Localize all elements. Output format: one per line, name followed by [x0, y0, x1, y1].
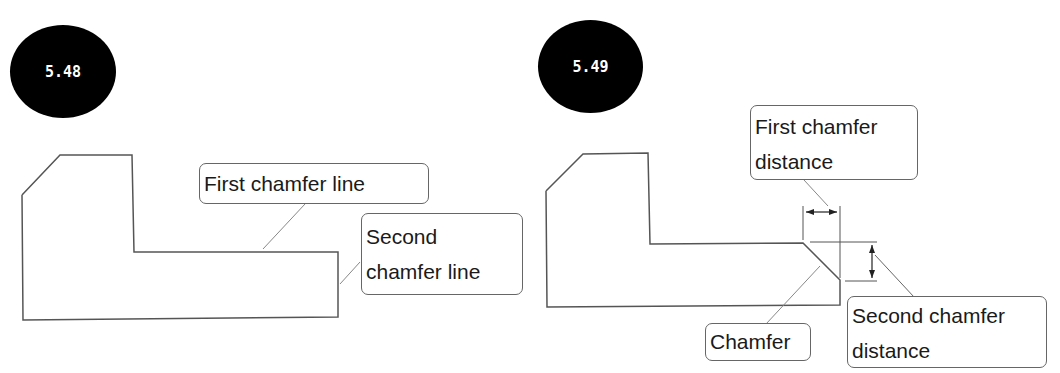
leader-first-chamfer-distance	[804, 180, 828, 206]
callout-first-chamfer-distance: First chamfer distance	[750, 105, 918, 180]
leader-second-chamfer-line	[340, 262, 360, 284]
callout-second-chamfer-line: Second chamfer line	[361, 213, 523, 295]
leader-second-chamfer-distance	[875, 255, 914, 297]
callout-first-chamfer-line: First chamfer line	[199, 163, 429, 204]
callout-second-chamfer-distance: Second chamfer distance	[847, 296, 1047, 368]
leader-chamfer	[766, 266, 820, 324]
leader-first-chamfer-line	[263, 204, 305, 249]
figure-number: 5.49	[572, 58, 608, 76]
figure-number-badge: 5.48	[10, 25, 116, 118]
figure-number-badge: 5.49	[538, 20, 643, 113]
callout-chamfer: Chamfer	[705, 323, 811, 361]
figure-number: 5.48	[45, 63, 81, 81]
